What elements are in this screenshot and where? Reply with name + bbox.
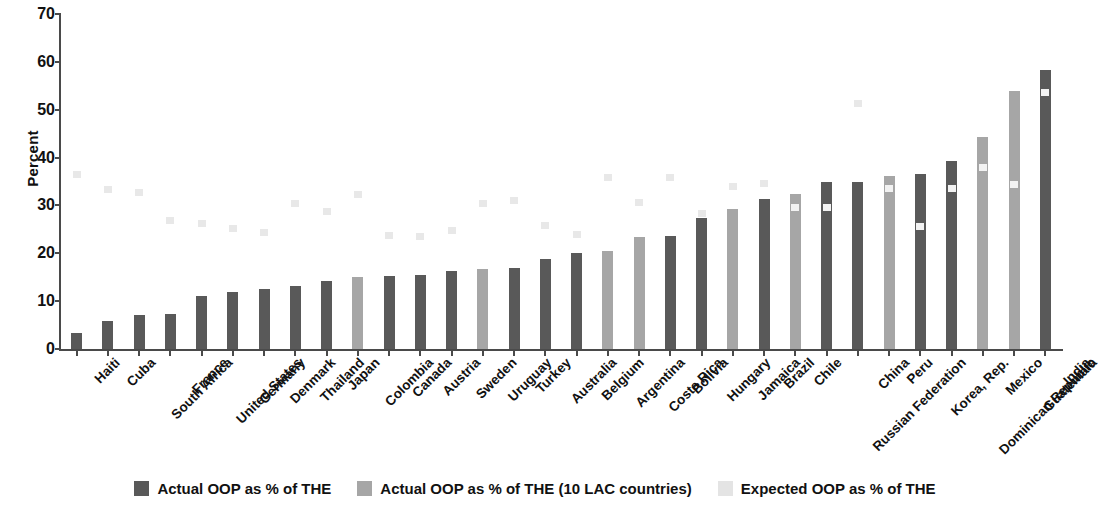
x-axis-tick-mark — [857, 349, 859, 356]
expected-marker-united-states — [198, 220, 206, 227]
x-axis-tick-mark — [1013, 349, 1015, 356]
bar-argentina — [602, 251, 613, 349]
legend-label: Expected OOP as % of THE — [741, 480, 936, 497]
expected-marker-south-africa — [135, 189, 143, 196]
y-axis-tick-label: 20 — [13, 244, 55, 262]
expected-marker-bolivia — [666, 174, 674, 181]
bar-denmark — [259, 289, 270, 349]
x-axis-tick-mark — [701, 349, 703, 356]
expected-marker-india — [1041, 89, 1049, 96]
expected-marker-france — [166, 217, 174, 224]
expected-marker-sweden — [448, 227, 456, 234]
bar-france — [165, 314, 176, 349]
x-axis-tick-mark — [138, 349, 140, 356]
x-axis-label-cuba: Cuba — [124, 355, 158, 389]
x-axis-tick-mark — [888, 349, 890, 356]
expected-marker-denmark — [260, 229, 268, 236]
expected-marker-germany — [229, 225, 237, 232]
bar-guatemala — [1009, 91, 1020, 349]
expected-marker-russian-federation — [823, 204, 831, 211]
y-axis-tick-label: 50 — [13, 101, 55, 119]
bar-uruguay — [477, 269, 488, 349]
expected-marker-korea-rep — [916, 223, 924, 230]
x-axis-tick-mark — [1044, 349, 1046, 356]
expected-marker-chile — [791, 204, 799, 211]
x-axis-tick-mark — [794, 349, 796, 356]
legend-item[interactable]: Actual OOP as % of THE (10 LAC countries… — [357, 480, 691, 497]
expected-marker-brazil — [760, 180, 768, 187]
bar-sweden — [446, 271, 457, 349]
expected-marker-thailand — [291, 200, 299, 207]
bar-china — [852, 182, 863, 349]
x-axis-tick-mark — [388, 349, 390, 356]
expected-marker-haiti — [73, 171, 81, 178]
bar-canada — [384, 276, 395, 349]
y-axis-tick-label: 0 — [13, 340, 55, 358]
x-axis-label-mexico: Mexico — [1002, 355, 1045, 398]
legend-item[interactable]: Actual OOP as % of THE — [134, 480, 331, 497]
y-axis-tick-label: 70 — [13, 5, 55, 23]
x-axis-label-chile: Chile — [811, 355, 845, 389]
y-axis-tick-label: 10 — [13, 292, 55, 310]
y-axis-tick-label: 60 — [13, 53, 55, 71]
bar-south-africa — [134, 315, 145, 349]
expected-marker-mexico — [979, 164, 987, 171]
expected-marker-peru — [885, 185, 893, 192]
x-axis-tick-mark — [919, 349, 921, 356]
expected-marker-belgium — [573, 231, 581, 238]
x-axis-tick-mark — [201, 349, 203, 356]
x-axis-label-haiti: Haiti — [91, 355, 122, 386]
chart-legend: Actual OOP as % of THEActual OOP as % of… — [0, 480, 1070, 497]
legend-item[interactable]: Expected OOP as % of THE — [718, 480, 936, 497]
x-axis-tick-mark — [951, 349, 953, 356]
legend-swatch-icon — [357, 481, 372, 496]
x-axis-tick-mark — [419, 349, 421, 356]
x-axis-tick-mark — [263, 349, 265, 356]
expected-marker-china — [854, 100, 862, 107]
x-axis-tick-mark — [982, 349, 984, 356]
x-axis-tick-mark — [513, 349, 515, 356]
expected-marker-cuba — [104, 186, 112, 193]
bar-chile — [790, 194, 801, 349]
plot-area — [61, 14, 1061, 349]
bar-japan — [321, 281, 332, 349]
bar-australia — [540, 259, 551, 349]
expected-marker-uruguay — [479, 200, 487, 207]
bar-belgium — [571, 253, 582, 349]
expected-marker-jamaica — [729, 183, 737, 190]
legend-swatch-icon — [718, 481, 733, 496]
expected-marker-japan — [323, 208, 331, 215]
bar-bolivia — [665, 236, 676, 349]
x-axis-tick-mark — [638, 349, 640, 356]
bar-austria — [415, 275, 426, 349]
bar-brazil — [759, 199, 770, 349]
x-axis-tick-mark — [232, 349, 234, 356]
bar-germany — [227, 292, 238, 349]
bar-costa-rica — [634, 237, 645, 349]
bar-jamaica — [727, 209, 738, 349]
x-axis-tick-mark — [576, 349, 578, 356]
expected-marker-argentina — [604, 174, 612, 181]
x-axis-tick-mark — [76, 349, 78, 356]
x-axis-tick-mark — [107, 349, 109, 356]
y-axis-tick-label: 30 — [13, 196, 55, 214]
bar-colombia — [352, 277, 363, 349]
expected-marker-dominican-republic — [948, 185, 956, 192]
expected-marker-colombia — [354, 191, 362, 198]
bar-united-states — [196, 296, 207, 349]
expected-marker-costa-rica — [635, 199, 643, 206]
bar-peru — [884, 176, 895, 349]
x-axis-tick-mark — [732, 349, 734, 356]
x-axis-tick-mark — [169, 349, 171, 356]
bar-hungary — [696, 218, 707, 349]
bar-turkey — [509, 268, 520, 349]
legend-label: Actual OOP as % of THE — [157, 480, 331, 497]
bar-korea-rep — [915, 174, 926, 349]
legend-swatch-icon — [134, 481, 149, 496]
y-axis-tick-label: 40 — [13, 149, 55, 167]
legend-label: Actual OOP as % of THE (10 LAC countries… — [380, 480, 691, 497]
expected-marker-australia — [541, 222, 549, 229]
bar-haiti — [71, 333, 82, 349]
x-axis-line — [59, 349, 1063, 351]
expected-marker-canada — [385, 232, 393, 239]
